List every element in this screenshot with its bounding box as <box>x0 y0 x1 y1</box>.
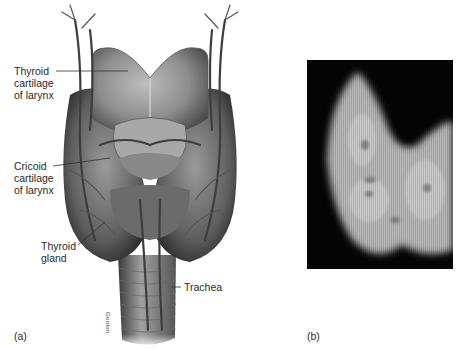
panel-a-anatomy: Thyroid cartilage of larynx Cricoid cart… <box>0 0 290 349</box>
label-thyroid-gland: Thyroid gland <box>41 240 76 264</box>
panel-b-scan: (b) <box>290 0 463 349</box>
label-cricoid-cartilage: Cricoid cartilage of larynx <box>14 160 54 196</box>
panel-letter-a: (a) <box>14 330 27 342</box>
label-trachea: Trachea <box>184 281 222 293</box>
artist-signature: Gordon <box>105 312 111 333</box>
thyroid-scan-image <box>307 60 453 269</box>
panel-letter-b: (b) <box>307 330 320 342</box>
label-thyroid-cartilage: Thyroid cartilage of larynx <box>14 65 54 101</box>
thyroid-scan-frame <box>307 60 453 269</box>
